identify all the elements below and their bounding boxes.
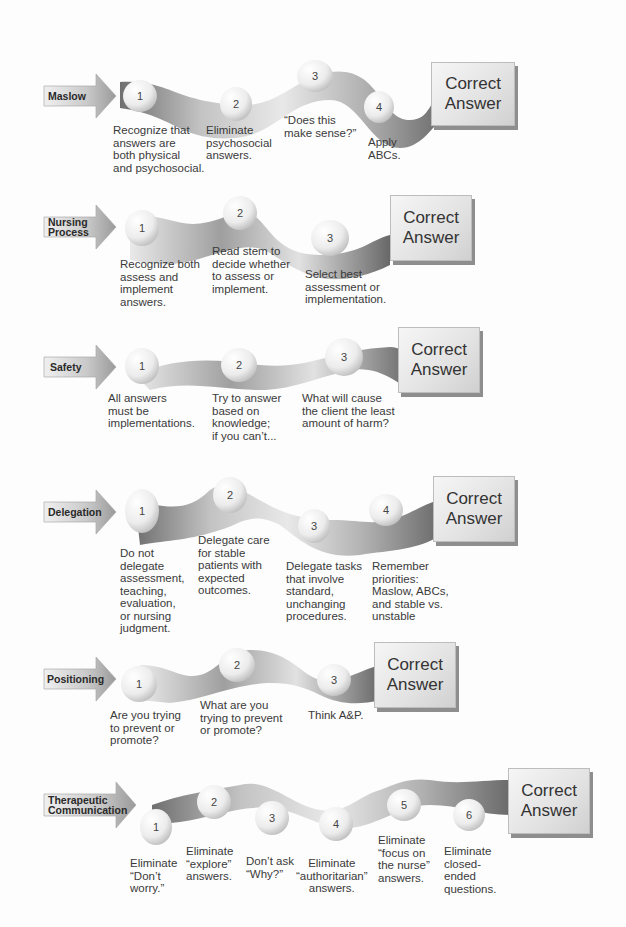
strategy-row-nursing-process: Nursing Process 1 2 3 Correct Answer Rec…	[0, 205, 626, 325]
step-caption-3: What will cause the client the least amo…	[302, 392, 395, 430]
correct-answer-box: Correct Answer	[374, 642, 456, 708]
strategy-label-line2: Communication	[48, 805, 127, 815]
strategy-label: Positioning	[47, 674, 104, 684]
step-caption-2: Eliminate “explore” answers.	[186, 845, 233, 883]
step-caption-4: Remember priorities: Maslow, ABCs, and s…	[372, 560, 449, 623]
step-caption-2: Try to answer based on knowledge; if you…	[212, 392, 281, 442]
strategy-arrow: Therapeutic Communication	[38, 782, 138, 828]
step-caption-2: Eliminate psychosocial answers.	[206, 124, 272, 162]
step-node-4: 4	[318, 806, 354, 842]
step-node-3: 3	[296, 508, 332, 544]
step-node-4: 4	[368, 492, 404, 528]
step-node-3: 3	[310, 219, 350, 257]
step-node-2: 2	[218, 86, 254, 122]
step-caption-3: “Does this make sense?”	[284, 114, 356, 139]
step-caption-6: Eliminate closed- ended questions.	[444, 845, 496, 895]
strategy-row-therapeutic-communication: Therapeutic Communication 1 2 3 4 5 6 Co…	[0, 770, 626, 920]
strategy-row-maslow: Maslow 1 2 3 4 Correct Answer Recognize …	[0, 60, 626, 180]
strategy-arrow: Positioning	[38, 657, 118, 701]
step-caption-4: Eliminate “authoritarian” answers.	[296, 857, 368, 895]
step-caption-2: What are you trying to prevent or promot…	[200, 699, 282, 737]
step-node-1: 1	[124, 209, 160, 247]
step-node-2: 2	[196, 784, 232, 820]
strategy-label: Maslow	[48, 91, 86, 101]
step-caption-2: Read stem to decide whether to assess or…	[212, 245, 290, 295]
step-node-2: 2	[218, 647, 256, 683]
step-node-3: 3	[254, 800, 290, 836]
step-node-1: 1	[124, 347, 160, 385]
step-caption-1: Recognize that answers are both physical…	[113, 124, 204, 174]
step-caption-4: Apply ABCs.	[368, 136, 401, 161]
strategy-label: Safety	[50, 362, 82, 372]
step-caption-1: Are you trying to prevent or promote?	[110, 709, 181, 747]
step-node-6: 6	[452, 798, 486, 832]
strategy-label: Delegation	[48, 507, 102, 517]
strategy-label-line2: Process	[48, 227, 89, 237]
step-caption-3: Think A&P.	[308, 709, 363, 722]
step-node-1: 1	[122, 78, 158, 114]
step-caption-3: Delegate tasks that involve standard, un…	[286, 560, 362, 623]
strategy-row-safety: Safety 1 2 3 Correct Answer All answers …	[0, 345, 626, 455]
correct-answer-box: Correct Answer	[390, 195, 472, 261]
step-node-2: 2	[220, 347, 258, 383]
step-node-1: 1	[124, 488, 160, 534]
step-node-4: 4	[362, 90, 396, 124]
strategy-arrow: Maslow	[38, 74, 118, 118]
strategy-arrow: Nursing Process	[38, 205, 118, 249]
step-caption-1: Recognize both assess and implement answ…	[120, 258, 200, 308]
step-node-3: 3	[296, 58, 334, 94]
step-node-3: 3	[324, 337, 364, 377]
step-caption-3: Don’t ask “Why?”	[246, 855, 294, 880]
strategy-row-positioning: Positioning 1 2 3 Correct Answer Are you…	[0, 645, 626, 755]
step-node-1: 1	[120, 665, 158, 703]
step-caption-1: Eliminate “Don’t worry.”	[130, 857, 177, 895]
step-caption-5: Eliminate “focus on the nurse” answers.	[378, 834, 430, 884]
strategy-row-delegation: Delegation 1 2 3 4 Correct Answer Do not…	[0, 480, 626, 630]
step-caption-1: All answers must be implementations.	[108, 392, 195, 430]
correct-answer-box: Correct Answer	[433, 476, 515, 542]
step-caption-3: Select best assessment or implementation…	[305, 268, 386, 306]
correct-answer-box: Correct Answer	[431, 62, 515, 126]
step-node-1: 1	[138, 808, 174, 846]
step-node-2: 2	[222, 195, 258, 231]
step-node-3: 3	[316, 663, 352, 697]
correct-answer-box: Correct Answer	[398, 327, 480, 393]
step-node-2: 2	[212, 476, 248, 514]
step-caption-1: Do not delegate assessment, teaching, ev…	[120, 547, 185, 635]
strategy-arrow: Safety	[38, 345, 118, 389]
strategy-arrow: Delegation	[38, 490, 118, 534]
correct-answer-box: Correct Answer	[508, 768, 590, 834]
step-caption-2: Delegate care for stable patients with e…	[198, 534, 270, 597]
step-node-5: 5	[386, 788, 422, 822]
